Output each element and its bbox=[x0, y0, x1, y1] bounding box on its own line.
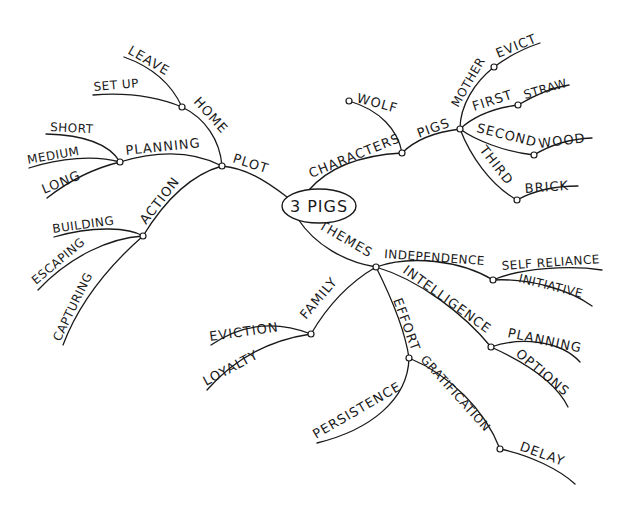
label-first: FIRST bbox=[470, 87, 514, 114]
label-third: THIRD bbox=[476, 142, 517, 188]
node-themes[interactable] bbox=[373, 264, 379, 270]
label-self-reliance: SELF RELIANCE bbox=[501, 252, 600, 273]
label-pigs: PIGS bbox=[415, 115, 452, 141]
label-characters: CHARACTERS bbox=[307, 130, 403, 180]
label-short: SHORT bbox=[50, 120, 94, 136]
node-family[interactable] bbox=[308, 331, 314, 337]
center-label: 3 PIGS bbox=[290, 197, 348, 216]
node-second[interactable] bbox=[531, 152, 537, 158]
label-building: BUILDING bbox=[51, 213, 115, 236]
node-action[interactable] bbox=[140, 233, 146, 239]
node-intelligence[interactable] bbox=[488, 344, 494, 350]
edge-family-loyalty bbox=[207, 334, 311, 390]
label-themes: THEMES bbox=[316, 217, 376, 260]
edge-effort-gratification bbox=[409, 358, 500, 449]
label-medium: MEDIUM bbox=[26, 144, 80, 167]
label-options: OPTIONS bbox=[513, 346, 572, 399]
node-first[interactable] bbox=[515, 102, 521, 108]
label-evict: EVICT bbox=[494, 31, 539, 61]
label-eviction: EVICTION bbox=[208, 319, 279, 344]
center-hub[interactable]: 3 PIGS bbox=[282, 189, 356, 223]
label-delay: DELAY bbox=[518, 439, 567, 469]
node-plot[interactable] bbox=[219, 163, 225, 169]
node-independence[interactable] bbox=[490, 277, 496, 283]
label-long: LONG bbox=[40, 168, 83, 197]
label-effort: EFFORT bbox=[390, 296, 423, 353]
label-capturing: CAPTURING bbox=[50, 270, 95, 343]
characters-branch: CHARACTERS WOLF PIGS MOTHER EVICT FIRST … bbox=[307, 31, 592, 203]
node-planning[interactable] bbox=[117, 159, 123, 165]
node-characters[interactable] bbox=[399, 150, 405, 156]
label-plot: PLOT bbox=[231, 151, 271, 177]
edge-home-setup bbox=[93, 94, 182, 107]
node-effort[interactable] bbox=[406, 355, 412, 361]
node-wolf[interactable] bbox=[346, 98, 352, 104]
label-wolf: WOLF bbox=[355, 90, 399, 115]
label-initiative: INITIATIVE bbox=[517, 271, 584, 301]
label-action: ACTION bbox=[137, 174, 183, 227]
node-home[interactable] bbox=[179, 104, 185, 110]
mind-map-canvas: PLOT HOME LEAVE SET UP PLANNING SHORT ME… bbox=[0, 0, 625, 508]
node-mother[interactable] bbox=[491, 64, 497, 70]
label-home: HOME bbox=[191, 94, 231, 136]
themes-branch: THEMES INDEPENDENCE SELF RELIANCE INITIA… bbox=[200, 217, 602, 484]
label-independence: INDEPENDENCE bbox=[384, 247, 486, 268]
label-family: FAMILY bbox=[297, 274, 340, 322]
node-pigs[interactable] bbox=[457, 126, 463, 132]
label-straw: STRAW bbox=[522, 76, 569, 102]
label-wood: WOOD bbox=[538, 130, 587, 151]
label-persistence: PERSISTENCE bbox=[310, 379, 404, 442]
label-setup: SET UP bbox=[93, 76, 139, 94]
label-gratification: GRATIFICATION bbox=[418, 353, 493, 435]
node-gratification[interactable] bbox=[497, 446, 503, 452]
label-loyalty: LOYALTY bbox=[200, 347, 260, 389]
plot-branch: PLOT HOME LEAVE SET UP PLANNING SHORT ME… bbox=[26, 43, 287, 345]
node-third[interactable] bbox=[514, 197, 520, 203]
label-brick: BRICK bbox=[524, 178, 569, 196]
